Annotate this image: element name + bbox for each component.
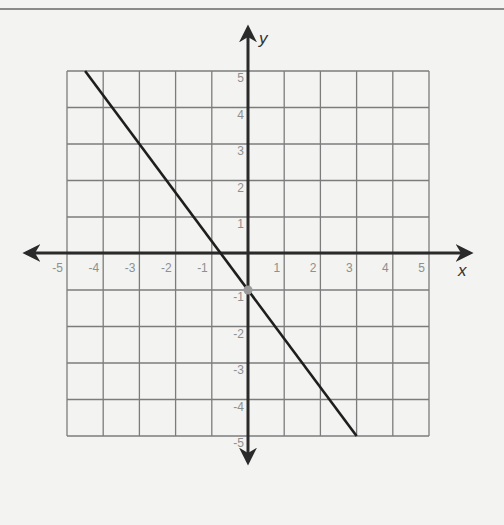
x-tick-label: 4 [382, 261, 389, 275]
y-tick-label: 5 [237, 71, 244, 85]
tick-labels: -5-4-3-2-11234554321-1-2-3-4-5 [52, 71, 425, 450]
x-tick-label: -3 [125, 261, 136, 275]
x-tick-label: 5 [418, 261, 425, 275]
y-tick-label: -3 [233, 363, 244, 377]
y-axis-label: y [258, 29, 269, 48]
x-tick-label: -1 [197, 261, 208, 275]
x-tick-label: 3 [346, 261, 353, 275]
y-tick-label: -2 [233, 327, 244, 341]
x-tick-label: -4 [89, 261, 100, 275]
y-tick-label: 4 [237, 108, 244, 122]
y-tick-label: 1 [237, 217, 244, 231]
coordinate-plane: -5-4-3-2-11234554321-1-2-3-4-5 x y [0, 0, 504, 525]
y-tick-label: -1 [233, 290, 244, 304]
x-tick-label: -5 [52, 261, 63, 275]
y-intercept-point [244, 286, 253, 295]
y-tick-label: 2 [237, 181, 244, 195]
x-tick-label: 2 [310, 261, 317, 275]
x-tick-label: -2 [161, 261, 172, 275]
x-axis-label: x [457, 261, 467, 280]
y-tick-label: 3 [237, 144, 244, 158]
y-tick-label: -4 [233, 400, 244, 414]
x-tick-label: 1 [274, 261, 281, 275]
y-tick-label: -5 [233, 436, 244, 450]
